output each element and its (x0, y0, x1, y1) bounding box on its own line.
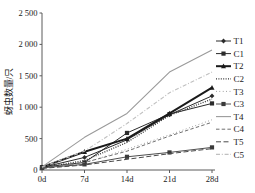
aphid-count-line-chart: 05001 0001 5002 0002 5000d7d14d21d28d蚜虫数… (0, 0, 255, 193)
legend-label-T3: T3 (234, 87, 244, 97)
legend-item-T1[interactable]: T1 (216, 36, 244, 46)
legend: T1C1T2C2T3C3T4C4T5C5 (216, 36, 245, 159)
series-line-C5 (42, 72, 212, 167)
legend-label-T2: T2 (234, 61, 244, 71)
chart-canvas: 05001 0001 5002 0002 5000d7d14d21d28d蚜虫数… (0, 0, 255, 193)
series-line-T3 (42, 120, 212, 168)
x-axis-tick-label: 7d (80, 174, 89, 184)
y-axis-title: 蚜虫数量/只 (3, 68, 14, 116)
legend-item-C2[interactable]: C2 (216, 74, 244, 84)
legend-item-C5[interactable]: C5 (216, 150, 245, 160)
x-axis-tick-label: 14d (121, 174, 135, 184)
y-axis-tick-label: 2 000 (18, 39, 37, 49)
legend-marker-T1 (221, 39, 226, 44)
legend-label-C1: C1 (234, 49, 245, 59)
marker-square-C1 (125, 131, 129, 135)
x-axis-tick-label: 0d (38, 174, 47, 184)
legend-label-C3: C3 (234, 99, 245, 109)
y-axis-tick-label: 1 000 (18, 102, 37, 112)
marker-triangle-T2 (210, 85, 215, 90)
marker-diamond-T1 (82, 155, 87, 160)
legend-marker-C3 (221, 102, 225, 106)
legend-label-C5: C5 (234, 150, 245, 160)
legend-label-T5: T5 (234, 137, 244, 147)
legend-item-T3[interactable]: T3 (216, 87, 244, 97)
legend-label-C4: C4 (234, 124, 245, 134)
y-axis-tick-label: 2 500 (18, 8, 37, 18)
legend-label-C2: C2 (234, 74, 245, 84)
legend-item-T4[interactable]: T4 (216, 112, 244, 122)
legend-label-T4: T4 (234, 112, 244, 122)
y-axis-tick-label: 1 500 (18, 71, 37, 81)
marker-square-C1 (210, 101, 214, 105)
y-axis-tick-label: 500 (25, 134, 38, 144)
series-C5 (42, 72, 212, 167)
x-axis-tick-label: 28d (206, 174, 220, 184)
legend-marker-C1 (221, 52, 225, 56)
marker-square-C3 (125, 155, 129, 159)
legend-label-T1: T1 (234, 36, 244, 46)
series-line-T4 (42, 50, 212, 167)
legend-item-T5[interactable]: T5 (216, 137, 244, 147)
legend-item-T2[interactable]: T2 (216, 61, 244, 71)
series-T4 (42, 50, 212, 167)
legend-item-C1[interactable]: C1 (216, 49, 244, 59)
series-T3 (42, 120, 212, 168)
legend-item-C4[interactable]: C4 (216, 124, 245, 134)
legend-item-C3[interactable]: C3 (216, 99, 245, 109)
marker-diamond-T1 (210, 93, 215, 98)
x-axis-tick-label: 21d (163, 174, 177, 184)
